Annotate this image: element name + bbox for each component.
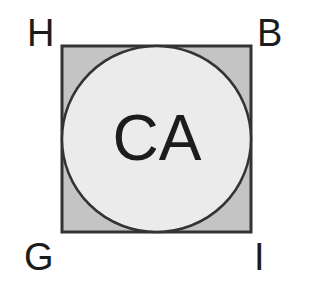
corner-label-bottom-right: I xyxy=(254,238,265,276)
corner-label-top-left: H xyxy=(27,14,54,52)
corner-label-bottom-left: G xyxy=(24,238,54,276)
circle-label: CA xyxy=(113,102,202,174)
corner-label-top-right: B xyxy=(257,14,282,52)
